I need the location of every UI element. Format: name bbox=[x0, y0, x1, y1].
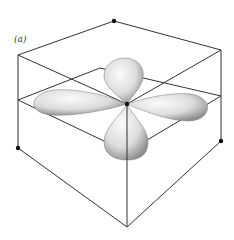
lobe-bottom bbox=[104, 104, 148, 160]
lobe-right bbox=[127, 94, 208, 121]
lobe-top bbox=[104, 58, 143, 104]
orbital-box-diagram bbox=[0, 0, 234, 240]
lobe-left bbox=[34, 90, 127, 116]
